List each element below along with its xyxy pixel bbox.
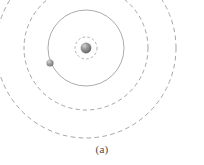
outer-shell-orbit-1 — [24, 0, 148, 110]
nucleus — [81, 43, 92, 54]
bohr-atom-diagram — [0, 0, 204, 165]
electron — [46, 59, 53, 66]
figure-panel: (a) — [0, 0, 204, 165]
outer-shell-orbit-2 — [0, 0, 176, 138]
figure-caption: (a) — [0, 143, 204, 156]
